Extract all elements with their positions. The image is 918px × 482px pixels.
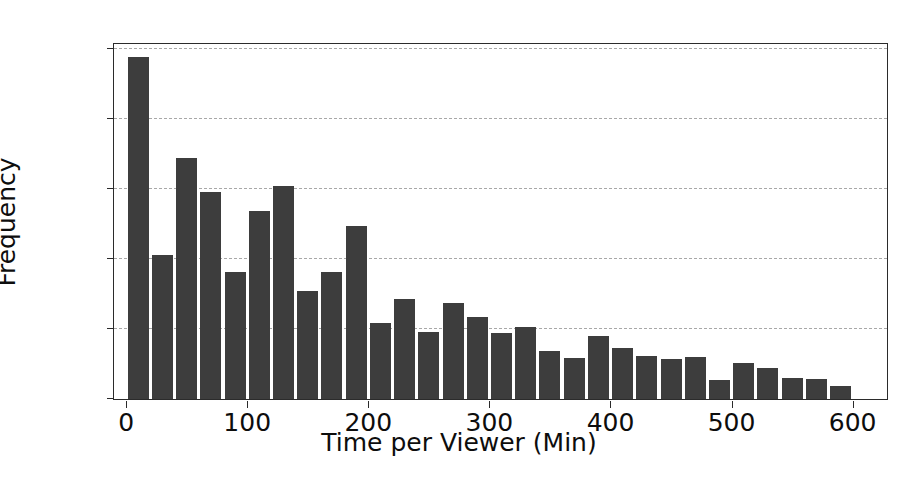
plot-axes-frame: 0100200300400500 0100200300400500600 <box>113 43 888 400</box>
histogram-bar <box>830 386 851 399</box>
histogram-bar <box>806 379 827 399</box>
bars-group <box>114 44 887 399</box>
x-tick-mark-200 <box>368 401 369 408</box>
histogram-figure: 0100200300400500 0100200300400500600 Fre… <box>0 0 918 482</box>
histogram-bar <box>176 158 197 400</box>
x-tick-mark-300 <box>489 401 490 408</box>
x-tick-mark-500 <box>732 401 733 408</box>
histogram-bar <box>612 348 633 399</box>
histogram-bar <box>443 303 464 399</box>
histogram-bar <box>394 299 415 399</box>
y-tick-mark-500 <box>107 48 114 49</box>
histogram-bar <box>515 327 536 399</box>
histogram-bar <box>782 378 803 399</box>
y-tick-mark-200 <box>107 258 114 259</box>
histogram-bar <box>152 255 173 399</box>
histogram-bar <box>588 336 609 399</box>
histogram-bar <box>200 192 221 399</box>
histogram-bar <box>685 357 706 399</box>
histogram-bar <box>225 272 246 399</box>
y-tick-mark-100 <box>107 328 114 329</box>
histogram-bar <box>128 57 149 399</box>
histogram-bar <box>539 351 560 399</box>
histogram-bar <box>321 272 342 399</box>
y-axis-label: Frequency <box>0 157 21 286</box>
histogram-bar <box>249 211 270 399</box>
histogram-bar <box>564 358 585 399</box>
x-tick-mark-400 <box>610 401 611 408</box>
y-tick-mark-0 <box>107 398 114 399</box>
y-tick-mark-400 <box>107 118 114 119</box>
histogram-bar <box>757 368 778 399</box>
x-axis-label: Time per Viewer (Min) <box>0 428 918 457</box>
histogram-bar <box>733 363 754 399</box>
histogram-bar <box>709 380 730 399</box>
histogram-bar <box>491 333 512 400</box>
histogram-bar <box>370 323 391 399</box>
histogram-bar <box>273 186 294 400</box>
x-tick-mark-600 <box>853 401 854 408</box>
x-tick-mark-0 <box>126 401 127 408</box>
histogram-bar <box>346 226 367 399</box>
histogram-bar <box>661 359 682 399</box>
histogram-bar <box>297 291 318 400</box>
histogram-bar <box>636 356 657 399</box>
x-tick-mark-100 <box>247 401 248 408</box>
histogram-bar <box>467 317 488 399</box>
histogram-bar <box>418 332 439 399</box>
y-tick-mark-300 <box>107 188 114 189</box>
